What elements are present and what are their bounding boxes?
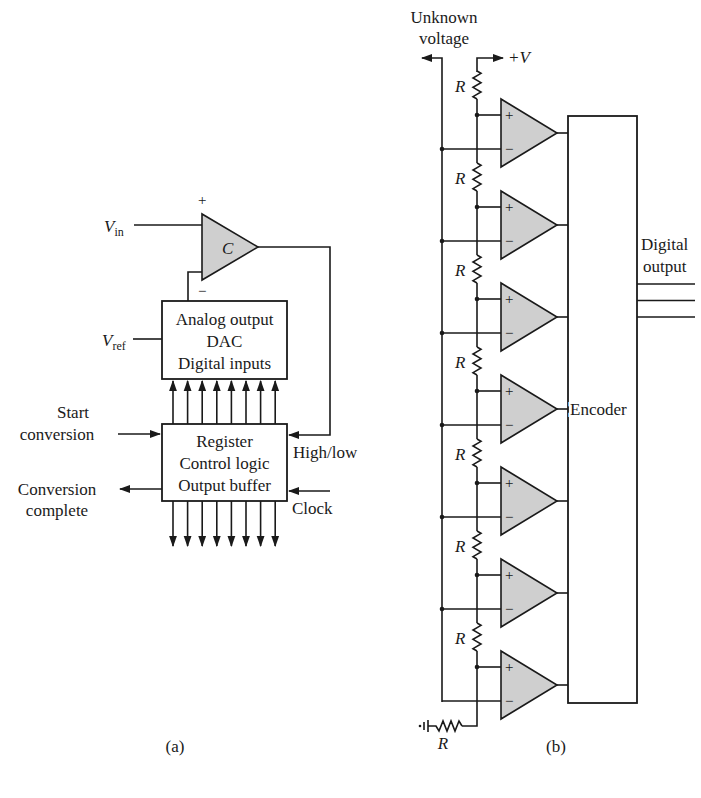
adc-diagram: C + − Vin Analog output DAC Digital inpu… — [0, 0, 701, 798]
ground-icon — [419, 720, 428, 732]
junction-dot — [440, 607, 445, 612]
junction-dot — [440, 331, 445, 336]
digital-output-bus — [173, 501, 275, 546]
vin-label: Vin — [104, 217, 124, 239]
ladder-resistor — [473, 531, 481, 559]
dac-line-3: Digital inputs — [178, 354, 271, 373]
junction-dot — [475, 113, 480, 118]
ground-resistor-label: R — [437, 734, 449, 753]
junction-dot — [475, 665, 480, 670]
comparator-plus-sign: + — [505, 567, 513, 583]
comparator-plus-sign: + — [505, 475, 513, 491]
figure-b: Unknown voltage +V RRRRRRR +−+−+−+−+−+−+… — [410, 8, 695, 756]
ladder-bottom-wire — [462, 702, 477, 726]
comparator-minus-sign: − — [505, 509, 513, 525]
junction-dot — [440, 239, 445, 244]
ladder-resistor — [473, 439, 481, 467]
ladder-resistor — [473, 623, 481, 651]
start-conversion-line-2: conversion — [20, 425, 95, 444]
resistor-label: R — [454, 169, 466, 188]
dac-line-2: DAC — [207, 332, 243, 351]
resistor-label: R — [454, 353, 466, 372]
comparator-plus-sign: + — [505, 291, 513, 307]
comparator-minus-sign: − — [505, 141, 513, 157]
junction-dot — [440, 147, 445, 152]
resistor-label: R — [454, 77, 466, 96]
comparator-minus-sign: − — [505, 325, 513, 341]
start-conversion-line-1: Start — [57, 403, 89, 422]
comparator-minus-sign: − — [505, 693, 513, 709]
dac-line-1: Analog output — [176, 310, 274, 329]
comparator-c-plus-sign: + — [198, 192, 206, 208]
junction-dot — [475, 389, 480, 394]
junction-dot — [475, 573, 480, 578]
caption-b: (b) — [546, 737, 566, 756]
ground-resistor — [428, 721, 462, 731]
junction-dot — [475, 205, 480, 210]
unknown-voltage-bus — [422, 58, 442, 702]
comparator-plus-sign: + — [505, 107, 513, 123]
digital-output-line-2: output — [643, 257, 687, 276]
register-line-1: Register — [196, 432, 253, 451]
ladder-resistor — [473, 163, 481, 191]
ladder-resistor — [473, 71, 481, 99]
digital-output-line-1: Digital — [641, 235, 688, 254]
resistor-label: R — [454, 261, 466, 280]
vref-label: Vref — [102, 331, 126, 353]
resistor-label: R — [454, 537, 466, 556]
unknown-voltage-line-1: Unknown — [410, 8, 478, 27]
comparator-plus-sign: + — [505, 383, 513, 399]
figure-a: C + − Vin Analog output DAC Digital inpu… — [18, 192, 358, 756]
junction-dot — [475, 481, 480, 486]
junction-dot — [475, 297, 480, 302]
plus-v-label: +V — [508, 48, 532, 67]
comparator-plus-sign: + — [505, 199, 513, 215]
comparator-minus-sign: − — [505, 233, 513, 249]
resistor-ladder: RRRRRRR — [454, 71, 481, 702]
junction-dot — [440, 515, 445, 520]
conversion-complete-line-1: Conversion — [18, 480, 97, 499]
junction-dot — [440, 423, 445, 428]
resistor-label: R — [454, 445, 466, 464]
comparator-c-label: C — [222, 239, 234, 258]
ladder-resistor — [473, 255, 481, 283]
register-line-2: Control logic — [179, 454, 270, 473]
plus-v-wire — [477, 58, 503, 72]
encoder-label: Encoder — [570, 400, 627, 419]
conversion-complete-line-2: complete — [26, 501, 88, 520]
unknown-voltage-line-2: voltage — [419, 29, 469, 48]
register-line-3: Output buffer — [178, 476, 271, 495]
comparator-minus-sign: − — [505, 601, 513, 617]
comparator-minus-sign: − — [505, 417, 513, 433]
digital-output-lines — [637, 284, 695, 317]
caption-a: (a) — [166, 737, 185, 756]
clock-label: Clock — [292, 499, 333, 518]
digital-bus-up — [173, 381, 275, 424]
ladder-resistor — [473, 347, 481, 375]
comparator-c-minus-sign: − — [198, 283, 206, 299]
resistor-label: R — [454, 629, 466, 648]
comparator-plus-sign: + — [505, 659, 513, 675]
comparator-bank: +−+−+−+−+−+−+− — [440, 99, 568, 719]
high-low-label: High/low — [293, 443, 358, 462]
